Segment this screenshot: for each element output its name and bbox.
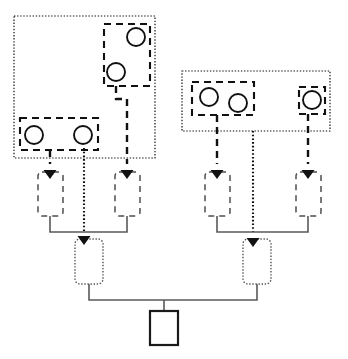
right-left-dashed-cluster-circle-1 bbox=[200, 88, 218, 106]
left-lower-dashed-cluster-circle-1 bbox=[25, 126, 43, 144]
diagram-svg bbox=[0, 0, 348, 359]
clusters-layer bbox=[20, 24, 325, 150]
mid-node-left-a bbox=[38, 172, 63, 216]
solid-mid4-to-merge-right bbox=[253, 216, 308, 232]
arrow-into-mid4 bbox=[302, 170, 315, 179]
left-upper-dashed-cluster-circle-2 bbox=[107, 63, 125, 81]
right-right-dashed-cluster-circle-1 bbox=[303, 91, 321, 109]
dashed-left-upper-to-mid2 bbox=[116, 86, 127, 164]
output-node bbox=[150, 311, 178, 345]
merge-node-right bbox=[243, 239, 271, 284]
mid-node-right-b bbox=[296, 172, 321, 216]
arrow-into-mid3 bbox=[211, 170, 224, 179]
solid-mid3-to-merge-right bbox=[217, 216, 253, 232]
arrow-into-merge-left bbox=[78, 236, 91, 245]
diagram-canvas bbox=[0, 0, 348, 359]
groups-layer bbox=[14, 16, 330, 158]
left-upper-dashed-cluster-circle-1 bbox=[127, 28, 145, 46]
nodes-layer bbox=[38, 172, 321, 345]
mid-node-right-a bbox=[205, 172, 230, 216]
merge-node-left bbox=[75, 239, 103, 284]
arrow-into-mid1 bbox=[44, 170, 57, 179]
arrow-into-merge-right bbox=[247, 238, 260, 247]
connectors-layer bbox=[50, 86, 308, 311]
solid-mid2-to-merge-left bbox=[84, 216, 127, 232]
solid-merge-left-to-bus bbox=[89, 284, 164, 300]
mid-node-left-b bbox=[115, 172, 140, 216]
arrow-into-mid2 bbox=[121, 170, 134, 179]
solid-merge-right-to-bus bbox=[164, 284, 257, 300]
solid-mid1-to-merge-left bbox=[50, 216, 84, 232]
right-left-dashed-cluster-circle-2 bbox=[229, 94, 247, 112]
left-lower-dashed-cluster-circle-2 bbox=[74, 126, 92, 144]
